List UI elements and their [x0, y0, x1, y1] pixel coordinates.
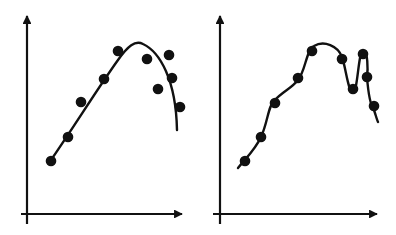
data-point: [63, 132, 74, 143]
data-point: [358, 49, 369, 60]
figure: [0, 0, 396, 235]
data-point: [256, 132, 267, 143]
data-point: [337, 54, 348, 65]
data-point: [153, 84, 164, 95]
data-point: [167, 73, 178, 84]
data-point: [240, 156, 251, 167]
fit-curve: [238, 44, 378, 168]
data-point: [46, 156, 57, 167]
data-point: [362, 72, 373, 83]
left-panel: [21, 16, 185, 224]
data-point: [113, 46, 124, 57]
data-point: [307, 46, 318, 57]
data-point: [175, 102, 186, 113]
data-point: [99, 74, 110, 85]
data-point: [164, 50, 175, 61]
data-point: [293, 73, 304, 84]
data-point: [142, 54, 153, 65]
data-point: [369, 101, 380, 112]
data-point: [270, 98, 281, 109]
data-point: [76, 97, 87, 108]
scatter-fit-diagram: [0, 0, 396, 235]
fit-curve: [51, 43, 177, 160]
data-point: [348, 84, 359, 95]
right-panel: [213, 16, 379, 224]
